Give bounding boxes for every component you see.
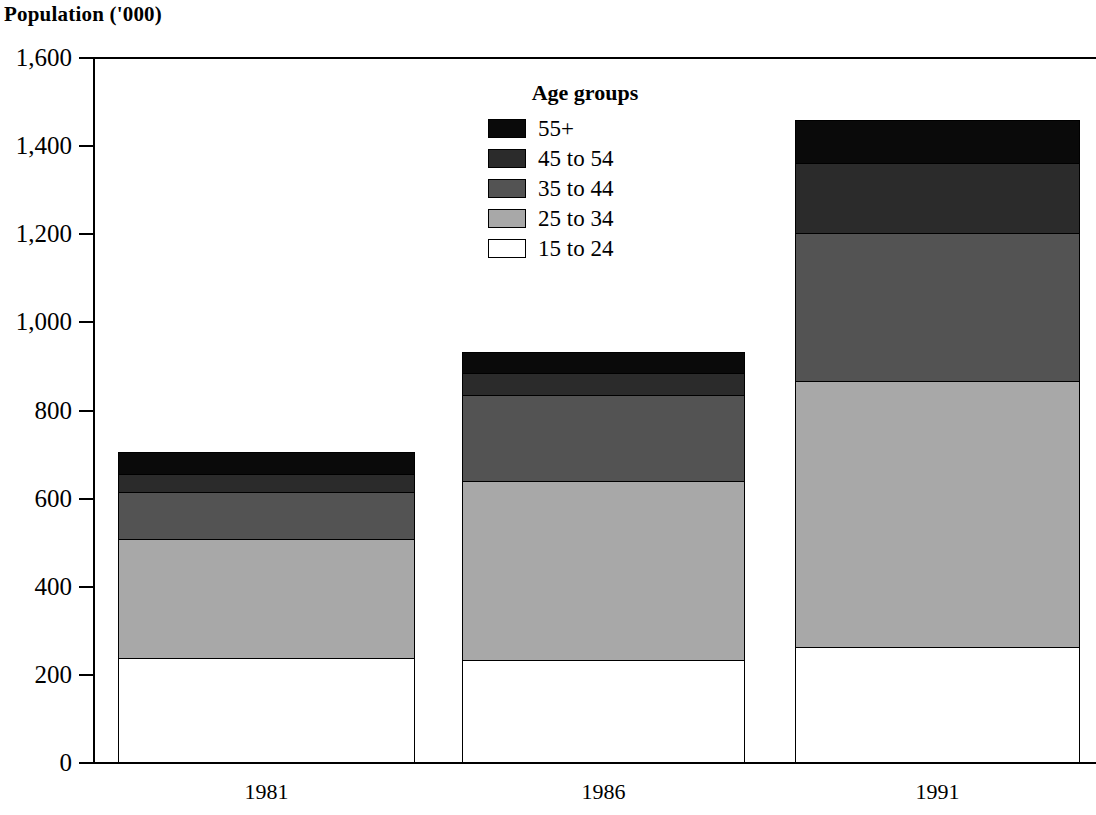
bar-segment[interactable] xyxy=(795,380,1080,648)
legend-swatch-icon xyxy=(488,209,526,228)
legend-swatch-icon xyxy=(488,119,526,138)
chart-title: Population ('000) xyxy=(4,2,162,27)
bar-segment[interactable] xyxy=(462,481,745,661)
y-axis-tick xyxy=(79,145,94,147)
y-axis-tick xyxy=(79,321,94,323)
bar-segment[interactable] xyxy=(118,452,415,475)
x-axis-tick-label: 1991 xyxy=(795,779,1080,805)
y-axis-tick-label: 1,200 xyxy=(0,221,72,246)
y-axis-tick-label: 1,000 xyxy=(0,309,72,334)
y-axis-tick xyxy=(79,586,94,588)
x-axis-tick-label: 1986 xyxy=(462,779,745,805)
bar-1981[interactable] xyxy=(118,58,415,763)
legend-item-label: 45 to 54 xyxy=(538,147,613,170)
bar-segment[interactable] xyxy=(795,120,1080,163)
y-axis-tick xyxy=(79,410,94,412)
y-axis-tick-label: 800 xyxy=(0,398,72,423)
legend-swatch-icon xyxy=(488,239,526,258)
legend-item[interactable]: 45 to 54 xyxy=(488,143,728,173)
y-axis-tick-label: 600 xyxy=(0,486,72,511)
y-axis-tick-label: 1,600 xyxy=(0,45,72,70)
y-axis-tick xyxy=(79,498,94,500)
y-axis-tick-label: 1,400 xyxy=(0,133,72,158)
legend-swatch-icon xyxy=(488,179,526,198)
y-axis-tick xyxy=(79,762,94,764)
y-axis-tick xyxy=(79,57,94,59)
y-axis-tick xyxy=(79,674,94,676)
chart-figure: Population ('000) 1,6001,4001,2001,00080… xyxy=(0,0,1096,815)
bar-segment[interactable] xyxy=(118,539,415,660)
y-axis-tick-label: 400 xyxy=(0,574,72,599)
legend-item[interactable]: 15 to 24 xyxy=(488,233,728,263)
legend-item-label: 25 to 34 xyxy=(538,207,613,230)
x-axis-tick-label: 1981 xyxy=(118,779,415,805)
legend-item-label: 35 to 44 xyxy=(538,177,613,200)
bar-segment[interactable] xyxy=(795,233,1080,382)
legend-swatch-icon xyxy=(488,149,526,168)
bar-segment[interactable] xyxy=(795,647,1080,763)
bar-segment[interactable] xyxy=(118,658,415,763)
y-axis-tick xyxy=(79,233,94,235)
bar-segment[interactable] xyxy=(795,162,1080,234)
bar-segment[interactable] xyxy=(462,373,745,397)
legend-item[interactable]: 55+ xyxy=(488,113,728,143)
y-axis-tick-label: 0 xyxy=(0,750,72,775)
legend-item-label: 55+ xyxy=(538,117,574,140)
bar-1991[interactable] xyxy=(795,58,1080,763)
bar-segment[interactable] xyxy=(462,352,745,375)
bar-segment[interactable] xyxy=(118,473,415,493)
legend-title: Age groups xyxy=(488,80,728,106)
legend: Age groups 55+45 to 5435 to 4425 to 3415… xyxy=(488,80,728,263)
y-axis-tick-label: 200 xyxy=(0,662,72,687)
bar-segment[interactable] xyxy=(118,491,415,540)
legend-items: 55+45 to 5435 to 4425 to 3415 to 24 xyxy=(488,113,728,263)
legend-item[interactable]: 35 to 44 xyxy=(488,173,728,203)
bar-segment[interactable] xyxy=(462,659,745,763)
legend-item[interactable]: 25 to 34 xyxy=(488,203,728,233)
bar-segment[interactable] xyxy=(462,395,745,482)
legend-item-label: 15 to 24 xyxy=(538,237,613,260)
